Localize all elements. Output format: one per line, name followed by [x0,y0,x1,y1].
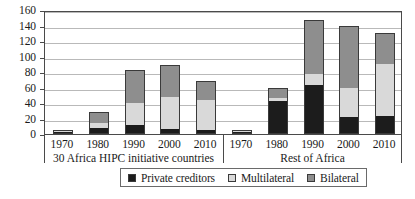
bar-rest-of-africa-2010 [375,33,395,135]
chart-figure: 020406080100120140160 197019801990200020… [0,0,415,199]
bar-segment-multilateral [125,103,145,125]
x-axis-group-label: 30 Africa HIPC initiative countries [44,152,223,164]
x-axis-group-label: Rest of Africa [223,152,402,164]
y-axis-tick-label: 20 [2,114,36,126]
bar-segment-private-creditors [339,117,359,134]
y-axis-tick-label: 140 [2,21,36,33]
x-axis-group-divider [223,135,224,163]
bar-rest-of-africa-2000 [339,26,359,134]
y-axis-tick-label: 80 [2,67,36,79]
bar-segment-private-creditors [160,129,180,134]
legend-item: Bilateral [307,172,359,184]
gridline [45,12,401,13]
bar-segment-multilateral [375,64,395,116]
bar-segment-private-creditors [89,128,109,134]
bar-segment-private-creditors [375,116,395,134]
y-axis-tick-label: 100 [2,52,36,64]
bar-30-africa-hipc-initiative-countries-1980 [89,112,109,134]
bar-segment-private-creditors [125,125,145,134]
bar-rest-of-africa-1970 [232,130,252,134]
bar-segment-bilateral [375,33,395,65]
bar-segment-bilateral [196,81,216,100]
bar-30-africa-hipc-initiative-countries-2010 [196,81,216,134]
legend-swatch-icon [228,174,236,182]
bar-30-africa-hipc-initiative-countries-2000 [160,65,180,134]
plot-area [44,11,402,135]
bar-segment-bilateral [339,26,359,87]
legend-item: Private creditors [128,172,215,184]
y-axis-tick-label: 160 [2,5,36,17]
legend-swatch-icon [128,174,136,182]
bar-30-africa-hipc-initiative-countries-1970 [53,130,73,134]
bar-segment-private-creditors [304,85,324,134]
bar-30-africa-hipc-initiative-countries-1990 [125,70,145,134]
y-axis-tick-label: 120 [2,36,36,48]
y-axis-tick-label: 60 [2,83,36,95]
bar-segment-multilateral [196,100,216,130]
bar-segment-bilateral [304,20,324,73]
bar-segment-bilateral [160,65,180,97]
chart-legend: Private creditorsMultilateralBilateral [120,168,367,187]
bar-rest-of-africa-1990 [304,20,324,134]
legend-label: Multilateral [241,172,294,184]
bar-segment-multilateral [339,88,359,117]
legend-label: Bilateral [320,172,359,184]
bar-segment-private-creditors [268,101,288,134]
bar-segment-bilateral [89,112,109,123]
bar-segment-private-creditors [232,132,252,134]
legend-label: Private creditors [141,172,215,184]
bar-segment-bilateral [268,88,288,99]
legend-item: Multilateral [228,172,294,184]
y-axis-tick-label: 0 [2,129,36,141]
bar-segment-multilateral [304,74,324,86]
legend-swatch-icon [307,174,315,182]
bar-segment-bilateral [125,70,145,103]
bar-rest-of-africa-1980 [268,88,288,134]
bar-segment-multilateral [160,97,180,129]
bar-segment-private-creditors [53,132,73,134]
x-axis-group-divider [44,135,45,163]
bar-segment-private-creditors [196,130,216,134]
y-axis-tick-label: 40 [2,98,36,110]
x-axis-group-divider [401,135,402,163]
